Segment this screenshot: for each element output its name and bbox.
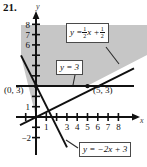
point-label-0-3: (0, 3) bbox=[4, 85, 24, 95]
x-axis-arrowhead bbox=[132, 114, 140, 121]
equation-line1-variable: x + bbox=[87, 27, 99, 37]
point-0-3-dot bbox=[34, 84, 38, 88]
equation-line1-fraction-one-half: 12 bbox=[82, 26, 87, 40]
equation-line1-lhs: y = bbox=[70, 27, 82, 37]
equation-label-line3: y = −2x + 3 bbox=[79, 142, 131, 157]
fraction-denominator: 2 bbox=[100, 32, 105, 39]
y-axis-label: y bbox=[36, 2, 40, 11]
svg-text:3: 3 bbox=[65, 122, 70, 132]
equation-label-line1: y =12x +12 bbox=[66, 23, 109, 43]
svg-text:−2: −2 bbox=[21, 133, 31, 143]
point-5-3-dot bbox=[85, 84, 89, 88]
equation-label-line2: y = 3 bbox=[56, 60, 83, 75]
svg-text:8: 8 bbox=[116, 122, 121, 132]
figure-container: 21. bbox=[0, 0, 147, 167]
x-axis-label: x bbox=[140, 116, 144, 125]
fraction-denominator: 2 bbox=[82, 32, 87, 39]
equation-line1-fraction-one-half-constant: 12 bbox=[100, 26, 105, 40]
svg-text:4: 4 bbox=[75, 122, 80, 132]
svg-text:7: 7 bbox=[106, 122, 111, 132]
point-label-5-3: (5, 3) bbox=[93, 85, 113, 95]
svg-text:6: 6 bbox=[26, 40, 31, 50]
svg-text:5: 5 bbox=[85, 122, 90, 132]
svg-text:1: 1 bbox=[44, 122, 49, 132]
y-axis-arrowhead bbox=[33, 11, 40, 19]
svg-text:7: 7 bbox=[26, 30, 31, 40]
svg-text:8: 8 bbox=[26, 20, 31, 30]
svg-text:6: 6 bbox=[96, 122, 101, 132]
svg-text:1: 1 bbox=[26, 102, 31, 112]
